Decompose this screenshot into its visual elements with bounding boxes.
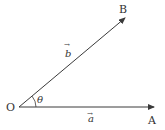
vector-b-label: b (65, 48, 71, 59)
vector-a-label: a (88, 113, 94, 124)
angle-label-theta: θ (37, 94, 43, 105)
vector-b-line (19, 18, 125, 107)
point-label-origin: O (6, 101, 15, 114)
vector-angle-diagram: O A B θ → b → a (0, 0, 165, 130)
point-label-a: A (147, 114, 157, 127)
point-label-b: B (119, 3, 127, 16)
angle-arc (32, 96, 36, 107)
